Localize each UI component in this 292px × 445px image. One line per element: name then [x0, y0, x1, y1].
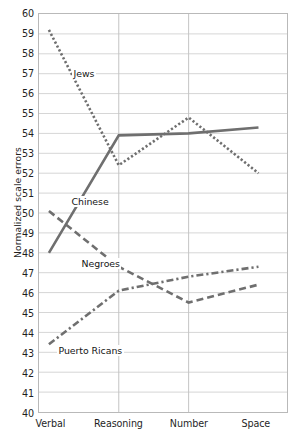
x-tick-label-space: Space: [241, 418, 270, 429]
y-tick-label: 40: [0, 408, 34, 419]
y-tick-label: 45: [0, 308, 34, 319]
x-tick-label-number: Number: [170, 418, 208, 429]
y-tick-label: 57: [0, 68, 34, 79]
y-tick-label: 60: [0, 8, 34, 19]
y-tick-label: 47: [0, 268, 34, 279]
y-tick-label: 50: [0, 208, 34, 219]
y-tick-label: 56: [0, 88, 34, 99]
y-tick-label: 48: [0, 248, 34, 259]
x-tick-label-verbal: Verbal: [36, 418, 66, 429]
series-line-chinese: [49, 127, 259, 252]
y-tick-label: 46: [0, 288, 34, 299]
y-tick-label: 43: [0, 348, 34, 359]
series-label-chinese: Chinese: [70, 196, 110, 207]
y-tick-label: 52: [0, 168, 34, 179]
y-tick-label: 53: [0, 148, 34, 159]
series-label-puerto-ricans: Puerto Ricans: [57, 345, 124, 356]
y-axis-tick-labels: 6059585756555453525150494847464544434241…: [0, 0, 34, 445]
line-chart: Normalized scale errors 6059585756555453…: [0, 0, 292, 445]
series-label-jews: Jews: [72, 68, 96, 79]
y-tick-label: 55: [0, 108, 34, 119]
y-tick-label: 42: [0, 368, 34, 379]
y-tick-label: 51: [0, 188, 34, 199]
gridlines: [39, 34, 287, 392]
y-tick-label: 49: [0, 228, 34, 239]
series-label-negroes: Negroes: [80, 258, 121, 269]
y-tick-label: 54: [0, 128, 34, 139]
y-tick-label: 44: [0, 328, 34, 339]
y-tick-label: 58: [0, 48, 34, 59]
series-line-negroes: [49, 211, 259, 303]
y-tick-label: 41: [0, 388, 34, 399]
y-tick-label: 59: [0, 28, 34, 39]
x-tick-label-reasoning: Reasoning: [94, 418, 143, 429]
series-line-jews: [49, 30, 259, 173]
